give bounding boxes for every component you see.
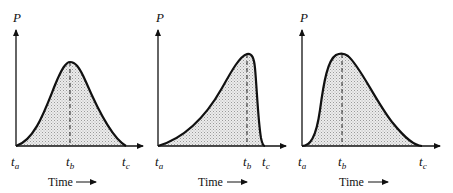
panel-3-early-peak: P ta tb tc Time (298, 10, 440, 189)
curve-area (158, 54, 265, 146)
time-label: Time (48, 175, 73, 189)
tick-ta: ta (155, 154, 164, 171)
tick-tc: tc (122, 154, 130, 171)
panel-2-late-peak: P ta tb tc Time (155, 10, 286, 189)
pressure-time-diagrams: P ta tb tc Time P ta tb tc Time P ta tb … (0, 0, 453, 193)
tick-ta: ta (298, 154, 307, 171)
tick-tb: tb (338, 154, 347, 171)
time-label: Time (339, 175, 364, 189)
tick-tb: tb (66, 154, 75, 171)
y-axis-label: P (12, 10, 21, 25)
panel-1-symmetric: P ta tb tc Time (11, 10, 143, 189)
tick-tc: tc (262, 154, 270, 171)
curve-area (302, 54, 422, 146)
y-axis-label: P (155, 10, 164, 25)
tick-ta: ta (11, 154, 20, 171)
time-label: Time (198, 175, 223, 189)
tick-tc: tc (419, 154, 427, 171)
tick-tb: tb (243, 154, 252, 171)
y-axis-label: P (299, 10, 308, 25)
